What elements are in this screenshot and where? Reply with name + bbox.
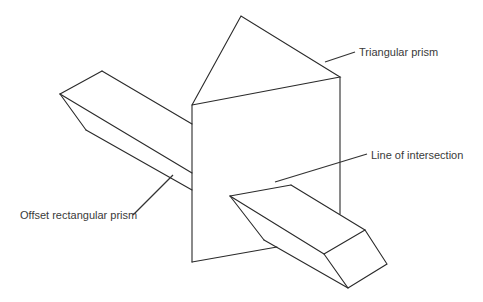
label-offset-rectangular-prism: Offset rectangular prism — [20, 209, 137, 221]
left-rectangular-prism — [60, 71, 192, 190]
right-prism-top-long — [291, 185, 365, 230]
right-prism-left-back — [230, 196, 264, 240]
label-line-of-intersection: Line of intersection — [371, 149, 463, 161]
prism-top-face — [192, 16, 340, 105]
leader-line-of-intersection — [275, 154, 367, 182]
left-prism-end-top — [60, 71, 102, 94]
leader-offset-rectangular-prism — [133, 175, 173, 215]
label-triangular-prism: Triangular prism — [359, 46, 438, 58]
left-prism-bottom-edge — [86, 130, 192, 190]
intersection-diagram: Triangular prism Line of intersection Of… — [0, 0, 483, 302]
left-prism-middle-edge — [60, 94, 192, 173]
right-prism-middle-long — [230, 196, 324, 254]
right-prism-top-back — [230, 185, 291, 196]
left-prism-end-bottom — [60, 94, 86, 130]
left-prism-top-edge — [102, 71, 192, 124]
triangular-prism — [192, 16, 340, 262]
leader-lines — [133, 52, 367, 215]
offset-rectangular-prism — [230, 185, 387, 288]
prism-front-bottom-edge — [192, 247, 277, 262]
leader-triangular-prism — [325, 52, 355, 62]
